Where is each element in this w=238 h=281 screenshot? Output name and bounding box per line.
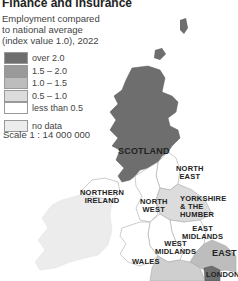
legend-item: less than 0.5 (4, 102, 83, 115)
legend-item: over 2.0 (4, 52, 83, 65)
label-north-west: NORTHWEST (140, 198, 168, 214)
legend-swatch (4, 90, 28, 102)
label-east: EAST (212, 249, 237, 257)
orkney-islands (154, 48, 166, 60)
legend-label: 1.0 – 1.5 (32, 78, 67, 88)
legend-swatch (4, 102, 28, 114)
legend-label: 0.5 – 1.0 (32, 91, 67, 101)
label-west-midlands: WESTMIDLANDS (155, 240, 196, 256)
label-london: LONDON (206, 271, 238, 279)
map-title: Finance and insurance (2, 0, 132, 10)
legend-swatch (4, 52, 28, 64)
shetland-islands (180, 18, 188, 34)
legend-label: 1.5 – 2.0 (32, 66, 67, 76)
subtitle-line: (index value 1.0), 2022 (2, 35, 100, 46)
legend-item: 1.0 – 1.5 (4, 77, 83, 90)
legend-label: less than 0.5 (32, 103, 83, 113)
label-scotland: SCOTLAND (118, 147, 170, 155)
legend-swatch (4, 65, 28, 77)
map-subtitle: Employment compared to national average … (2, 13, 100, 46)
legend-item: 0.5 – 1.0 (4, 90, 83, 103)
legend: over 2.0 1.5 – 2.0 1.0 – 1.5 0.5 – 1.0 l… (4, 52, 83, 132)
scale-label: Scale 1 : 14 000 000 (3, 129, 90, 140)
legend-swatch (4, 77, 28, 89)
legend-item: 1.5 – 2.0 (4, 65, 83, 78)
label-northern-ireland: NORTHERNIRELAND (80, 189, 124, 205)
subtitle-line: Employment compared (2, 13, 100, 24)
legend-label: over 2.0 (32, 53, 65, 63)
label-wales: WALES (132, 258, 160, 266)
label-north-east: NORTHEAST (176, 165, 204, 181)
label-east-midlands: EASTMIDLANDS (182, 225, 223, 241)
subtitle-line: to national average (2, 24, 100, 35)
label-yorkshire: YORKSHIRE& THE HUMBER (180, 195, 238, 219)
